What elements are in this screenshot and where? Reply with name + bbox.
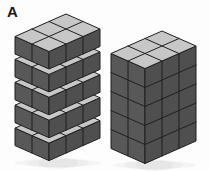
figure-panel: A bbox=[0, 0, 209, 171]
compact-stack-shadow bbox=[112, 159, 196, 171]
cube-stacks-figure bbox=[0, 0, 209, 171]
compact-stack bbox=[111, 31, 196, 164]
separated-layer-stack-shadow bbox=[14, 157, 102, 169]
panel-label: A bbox=[7, 3, 18, 20]
separated-layer-stack bbox=[15, 14, 100, 161]
